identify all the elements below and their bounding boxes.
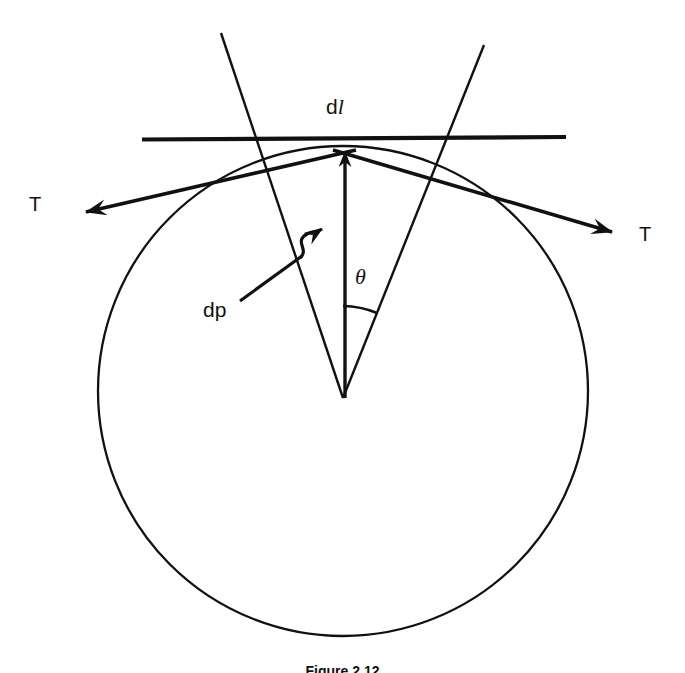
figure-caption: Figure 2.12 — [0, 663, 685, 673]
figure-page: dl θ dp T T Figure 2.12 — [0, 0, 685, 673]
dp-leader-squiggle — [300, 229, 322, 258]
arc-length-label: dl — [326, 96, 344, 118]
pressure-vessel-circle — [98, 146, 588, 636]
tension-label-left: T — [29, 194, 41, 214]
tension-arrow-right — [333, 150, 612, 232]
angle-arc — [343, 306, 377, 313]
arc-length-label-d: d — [326, 95, 338, 118]
radius-line-left — [221, 33, 343, 398]
tangent-line — [142, 137, 566, 140]
arc-length-label-l: l — [338, 94, 344, 119]
pressure-label: dp — [203, 299, 226, 320]
radius-line-right — [343, 45, 484, 398]
tension-arrow-left — [86, 150, 356, 212]
dp-leader-line — [240, 256, 302, 301]
angle-label: θ — [355, 266, 366, 288]
tension-label-right: T — [639, 224, 651, 244]
